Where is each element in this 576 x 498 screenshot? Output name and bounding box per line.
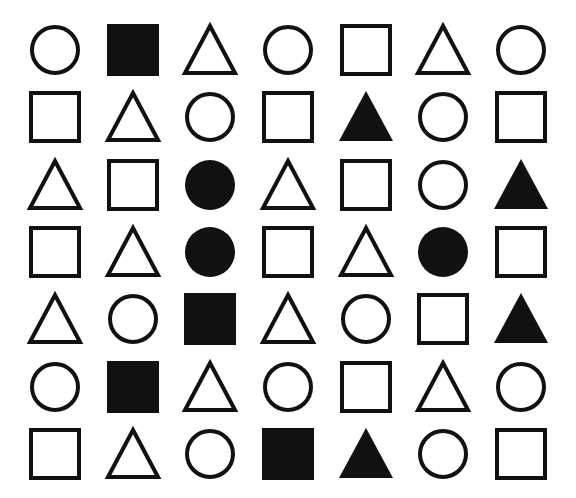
shape-grid-canvas — [0, 0, 576, 498]
grid-cell-7-6[interactable] — [405, 421, 483, 488]
grid-cell-6-7[interactable] — [482, 353, 560, 420]
square-filled-icon — [181, 290, 239, 348]
grid-cell-6-2[interactable] — [94, 353, 172, 420]
grid-cell-2-1[interactable] — [16, 83, 94, 150]
grid-cell-6-4[interactable] — [249, 353, 327, 420]
grid-cell-7-3[interactable] — [171, 421, 249, 488]
circle-outline-icon — [337, 290, 395, 348]
triangle-filled-icon — [492, 156, 550, 214]
grid-cell-4-1[interactable] — [16, 218, 94, 285]
triangle-outline-icon — [181, 358, 239, 416]
square-outline-icon — [337, 358, 395, 416]
circle-outline-icon — [26, 358, 84, 416]
triangle-filled-icon — [492, 290, 550, 348]
circle-outline-icon — [492, 358, 550, 416]
grid-cell-3-1[interactable] — [16, 151, 94, 218]
square-outline-icon — [337, 21, 395, 79]
circle-filled-icon — [181, 223, 239, 281]
grid-cell-3-5[interactable] — [327, 151, 405, 218]
grid-cell-2-6[interactable] — [405, 83, 483, 150]
grid-cell-7-7[interactable] — [482, 421, 560, 488]
grid-cell-1-1[interactable] — [16, 16, 94, 83]
square-outline-icon — [337, 156, 395, 214]
triangle-outline-icon — [337, 223, 395, 281]
grid-cell-4-3[interactable] — [171, 218, 249, 285]
square-outline-icon — [492, 425, 550, 483]
square-outline-icon — [26, 425, 84, 483]
grid-cell-5-5[interactable] — [327, 286, 405, 353]
grid-cell-2-4[interactable] — [249, 83, 327, 150]
square-outline-icon — [104, 156, 162, 214]
square-filled-icon — [104, 21, 162, 79]
grid-cell-5-2[interactable] — [94, 286, 172, 353]
circle-outline-icon — [492, 21, 550, 79]
square-outline-icon — [259, 88, 317, 146]
grid-cell-3-3[interactable] — [171, 151, 249, 218]
grid-cell-4-7[interactable] — [482, 218, 560, 285]
grid-cell-4-2[interactable] — [94, 218, 172, 285]
grid-cell-5-4[interactable] — [249, 286, 327, 353]
grid-cell-3-7[interactable] — [482, 151, 560, 218]
square-outline-icon — [26, 88, 84, 146]
grid-cell-1-5[interactable] — [327, 16, 405, 83]
grid-cell-3-4[interactable] — [249, 151, 327, 218]
grid-cell-1-6[interactable] — [405, 16, 483, 83]
circle-outline-icon — [259, 21, 317, 79]
grid-cell-6-1[interactable] — [16, 353, 94, 420]
triangle-outline-icon — [26, 156, 84, 214]
grid-cell-3-2[interactable] — [94, 151, 172, 218]
grid-cell-5-6[interactable] — [405, 286, 483, 353]
grid-cell-6-3[interactable] — [171, 353, 249, 420]
circle-outline-icon — [259, 358, 317, 416]
square-outline-icon — [414, 290, 472, 348]
triangle-outline-icon — [259, 290, 317, 348]
grid-cell-1-2[interactable] — [94, 16, 172, 83]
grid-cell-6-5[interactable] — [327, 353, 405, 420]
grid-cell-2-5[interactable] — [327, 83, 405, 150]
grid-cell-7-1[interactable] — [16, 421, 94, 488]
circle-filled-icon — [414, 223, 472, 281]
circle-filled-icon — [181, 156, 239, 214]
grid-cell-2-7[interactable] — [482, 83, 560, 150]
triangle-outline-icon — [414, 358, 472, 416]
grid-cell-4-6[interactable] — [405, 218, 483, 285]
triangle-outline-icon — [259, 156, 317, 214]
grid-cell-5-7[interactable] — [482, 286, 560, 353]
circle-outline-icon — [104, 290, 162, 348]
triangle-outline-icon — [26, 290, 84, 348]
grid-cell-1-7[interactable] — [482, 16, 560, 83]
grid-cell-7-5[interactable] — [327, 421, 405, 488]
circle-outline-icon — [414, 156, 472, 214]
triangle-outline-icon — [414, 21, 472, 79]
grid-cell-7-4[interactable] — [249, 421, 327, 488]
square-outline-icon — [259, 223, 317, 281]
circle-outline-icon — [414, 88, 472, 146]
circle-outline-icon — [181, 425, 239, 483]
grid-cell-4-4[interactable] — [249, 218, 327, 285]
square-outline-icon — [26, 223, 84, 281]
triangle-outline-icon — [181, 21, 239, 79]
square-outline-icon — [492, 88, 550, 146]
square-outline-icon — [492, 223, 550, 281]
triangle-outline-icon — [104, 88, 162, 146]
shape-grid — [16, 16, 560, 488]
circle-outline-icon — [26, 21, 84, 79]
circle-outline-icon — [414, 425, 472, 483]
triangle-filled-icon — [337, 425, 395, 483]
grid-cell-4-5[interactable] — [327, 218, 405, 285]
square-filled-icon — [104, 358, 162, 416]
circle-outline-icon — [181, 88, 239, 146]
grid-cell-2-2[interactable] — [94, 83, 172, 150]
triangle-outline-icon — [104, 223, 162, 281]
grid-cell-3-6[interactable] — [405, 151, 483, 218]
grid-cell-7-2[interactable] — [94, 421, 172, 488]
triangle-filled-icon — [337, 88, 395, 146]
square-filled-icon — [259, 425, 317, 483]
grid-cell-6-6[interactable] — [405, 353, 483, 420]
grid-cell-5-1[interactable] — [16, 286, 94, 353]
grid-cell-5-3[interactable] — [171, 286, 249, 353]
triangle-outline-icon — [104, 425, 162, 483]
grid-cell-2-3[interactable] — [171, 83, 249, 150]
grid-cell-1-4[interactable] — [249, 16, 327, 83]
grid-cell-1-3[interactable] — [171, 16, 249, 83]
